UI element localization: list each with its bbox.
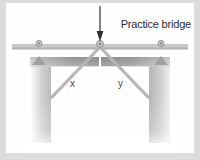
right-pier — [94, 57, 174, 153]
truss-members — [52, 47, 148, 97]
figure-root: Practice bridge x y — [0, 0, 200, 160]
center-pin-center — [99, 43, 101, 45]
label-left-diagonal: x — [70, 79, 75, 89]
figure-title: Practice bridge — [121, 19, 191, 30]
right-pier-fade — [94, 98, 174, 153]
pin-joint-icon-center — [97, 41, 104, 48]
left-pin-center — [38, 42, 40, 44]
label-right-diagonal: y — [118, 79, 123, 89]
bridge-diagram: Practice bridge x y — [6, 3, 194, 153]
down-arrow-icon — [97, 6, 104, 42]
load-arrow-head — [97, 31, 104, 42]
left-diagonal-member — [52, 47, 100, 97]
right-diagonal-member — [100, 47, 148, 97]
right-pin-center — [160, 42, 162, 44]
figure-canvas: Practice bridge x y — [6, 3, 194, 153]
